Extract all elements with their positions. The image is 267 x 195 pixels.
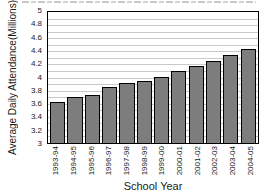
x-tick-slot: 2002-03	[206, 146, 224, 180]
x-tick-slot: 1993-94	[47, 146, 65, 180]
x-tick-label: 1994-95	[69, 146, 78, 175]
bar-slot	[49, 12, 66, 143]
bar-slot	[84, 12, 101, 143]
bar-1993-94	[50, 102, 65, 143]
bar-1996-97	[102, 87, 117, 143]
y-tick-label: 4	[38, 74, 42, 82]
x-axis-tick-labels: 1993-941994-951995-961996-971997-981998-…	[47, 146, 259, 180]
bar-slot	[118, 12, 135, 143]
x-tick-slot: 2000-01	[171, 146, 189, 180]
y-tick-label: 3	[38, 140, 42, 148]
bar-1994-95	[67, 97, 82, 143]
bar-1999-00	[154, 77, 169, 143]
bar-slot	[66, 12, 83, 143]
x-tick-slot: 1995-96	[82, 146, 100, 180]
x-tick-slot: 2004-05	[241, 146, 259, 180]
bar-1997-98	[119, 83, 134, 143]
cropped-title-fragment	[22, 1, 256, 3]
y-axis-title-line2: (Millions)	[7, 0, 18, 40]
bar-2003-04	[223, 55, 238, 143]
y-tick-label: 3.6	[31, 100, 42, 108]
bar-2001-02	[189, 66, 204, 143]
bar-2002-03	[206, 61, 221, 143]
bar-slot	[101, 12, 118, 143]
x-tick-slot: 2003-04	[224, 146, 242, 180]
y-tick-label: 3.8	[31, 87, 42, 95]
x-tick-label: 1995-96	[87, 146, 96, 175]
x-tick-label: 1998-99	[140, 146, 149, 175]
bar-series	[48, 12, 258, 143]
x-tick-label: 2000-01	[175, 146, 184, 175]
y-tick-label: 3.4	[31, 113, 42, 121]
y-tick-label: 5	[38, 7, 42, 15]
attendance-bar-chart: Average Daily Attendance (Millions) 54.8…	[0, 0, 267, 195]
y-axis-tick-labels: 54.84.64.44.243.83.63.43.23	[24, 11, 44, 144]
x-tick-label: 1993-94	[51, 146, 60, 175]
x-tick-slot: 1997-98	[118, 146, 136, 180]
x-tick-slot: 1994-95	[65, 146, 83, 180]
x-tick-slot: 1998-99	[135, 146, 153, 180]
y-axis-title: Average Daily Attendance (Millions)	[0, 11, 24, 144]
bar-slot	[205, 12, 222, 143]
y-tick-label: 3.2	[31, 127, 42, 135]
bar-slot	[153, 12, 170, 143]
bar-slot	[170, 12, 187, 143]
x-tick-slot: 2001-02	[188, 146, 206, 180]
bar-slot	[240, 12, 257, 143]
bar-slot	[222, 12, 239, 143]
x-tick-slot: 1999-00	[153, 146, 171, 180]
x-tick-label: 2004-05	[246, 146, 255, 175]
bar-1998-99	[137, 81, 152, 143]
x-tick-slot: 1996-97	[100, 146, 118, 180]
y-tick-label: 4.4	[31, 47, 42, 55]
bar-1995-96	[85, 95, 100, 143]
y-tick-label: 4.8	[31, 20, 42, 28]
x-tick-label: 1996-97	[104, 146, 113, 175]
y-tick-label: 4.6	[31, 34, 42, 42]
plot-area	[47, 11, 259, 144]
x-tick-label: 1999-00	[157, 146, 166, 175]
x-tick-label: 2002-03	[210, 146, 219, 175]
x-axis-title: School Year	[47, 180, 259, 192]
bar-2004-05	[241, 49, 256, 143]
bar-slot	[188, 12, 205, 143]
y-axis-title-line1: Average Daily Attendance	[7, 40, 18, 155]
x-tick-label: 1997-98	[122, 146, 131, 175]
x-tick-label: 2001-02	[193, 146, 202, 175]
x-tick-label: 2003-04	[228, 146, 237, 175]
bar-slot	[136, 12, 153, 143]
y-tick-label: 4.2	[31, 60, 42, 68]
bar-2000-01	[171, 71, 186, 143]
